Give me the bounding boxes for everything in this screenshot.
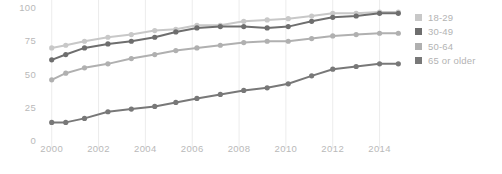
data-point — [105, 61, 110, 66]
data-point — [286, 24, 291, 29]
legend-swatch-icon — [415, 28, 422, 35]
legend-item-30-49[interactable]: 30-49 — [415, 25, 501, 40]
data-point — [309, 19, 314, 24]
data-point — [330, 33, 335, 38]
data-point — [218, 24, 223, 29]
data-point — [309, 13, 314, 18]
data-point — [241, 24, 246, 29]
x-tick-label: 2014 — [357, 143, 403, 154]
data-point — [377, 11, 382, 16]
x-tick-label: 2004 — [122, 143, 168, 154]
data-point — [63, 120, 68, 125]
data-point — [241, 40, 246, 45]
data-point — [129, 106, 134, 111]
data-point — [265, 39, 270, 44]
data-point — [105, 109, 110, 114]
data-point — [309, 36, 314, 41]
data-point — [105, 35, 110, 40]
x-tick-label: 2012 — [310, 143, 356, 154]
data-point — [152, 28, 157, 33]
data-point — [194, 45, 199, 50]
legend-label: 65 or older — [428, 55, 476, 66]
data-point — [152, 35, 157, 40]
x-tick-label: 2008 — [216, 143, 262, 154]
data-point — [354, 64, 359, 69]
data-point — [152, 52, 157, 57]
data-point — [396, 11, 401, 16]
data-point — [265, 17, 270, 22]
plot-svg — [40, 8, 403, 141]
data-point — [218, 92, 223, 97]
data-point — [377, 61, 382, 66]
legend-swatch-icon — [415, 43, 422, 50]
y-tick-label: 75 — [6, 36, 36, 46]
x-tick-label: 2002 — [76, 143, 122, 154]
chart-legend: 18-2930-4950-6465 or older — [415, 10, 501, 68]
x-axis: 20002002200420062008201020122014 — [40, 143, 403, 169]
legend-label: 50-64 — [428, 41, 453, 52]
legend-swatch-icon — [415, 57, 422, 64]
data-point — [286, 16, 291, 21]
data-point — [377, 31, 382, 36]
data-point — [82, 39, 87, 44]
data-point — [241, 19, 246, 24]
data-point — [152, 104, 157, 109]
data-point — [218, 43, 223, 48]
data-point — [82, 65, 87, 70]
line-chart: 1007550250 20002002200420062008201020122… — [0, 0, 502, 174]
data-point — [173, 48, 178, 53]
data-point — [63, 43, 68, 48]
data-point — [63, 52, 68, 57]
x-tick-label: 2006 — [169, 143, 215, 154]
data-point — [396, 61, 401, 66]
series-65-or-older — [49, 61, 401, 125]
legend-item-50-64[interactable]: 50-64 — [415, 39, 501, 54]
y-tick-label: 25 — [6, 103, 36, 113]
legend-item-65-or-older[interactable]: 65 or older — [415, 54, 501, 69]
data-point — [241, 88, 246, 93]
data-point — [49, 57, 54, 62]
data-point — [265, 85, 270, 90]
y-tick-label: 100 — [6, 3, 36, 13]
series-30-49 — [49, 11, 401, 63]
data-point — [173, 100, 178, 105]
data-point — [49, 45, 54, 50]
data-point — [82, 45, 87, 50]
data-point — [173, 29, 178, 34]
legend-label: 30-49 — [428, 26, 453, 37]
y-tick-label: 50 — [6, 70, 36, 80]
data-point — [129, 32, 134, 37]
data-point — [396, 31, 401, 36]
data-point — [63, 71, 68, 76]
data-point — [286, 39, 291, 44]
data-point — [194, 25, 199, 30]
legend-label: 18-29 — [428, 12, 453, 23]
data-point — [194, 96, 199, 101]
legend-swatch-icon — [415, 14, 422, 21]
data-point — [105, 41, 110, 46]
data-point — [309, 73, 314, 78]
data-point — [49, 77, 54, 82]
data-point — [82, 116, 87, 121]
data-point — [330, 15, 335, 20]
data-point — [265, 25, 270, 30]
plot-area — [40, 8, 403, 141]
gridlines — [52, 0, 380, 149]
data-point — [129, 56, 134, 61]
data-point — [354, 13, 359, 18]
legend-item-18-29[interactable]: 18-29 — [415, 10, 501, 25]
data-point — [330, 67, 335, 72]
x-tick-label: 2000 — [29, 143, 75, 154]
data-point — [129, 39, 134, 44]
y-axis: 1007550250 — [0, 0, 36, 160]
data-point — [49, 120, 54, 125]
x-tick-label: 2010 — [263, 143, 309, 154]
data-point — [354, 32, 359, 37]
data-point — [286, 81, 291, 86]
